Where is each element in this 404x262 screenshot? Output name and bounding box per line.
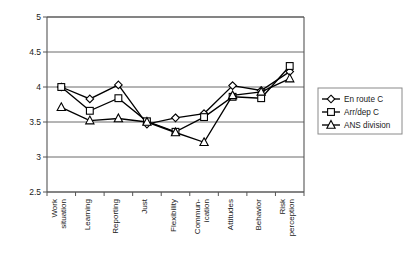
data-point-marker: [201, 114, 208, 121]
data-point-marker: [172, 114, 180, 122]
y-tick-label: 5: [36, 12, 41, 22]
x-tick-label: Reporting: [111, 199, 120, 234]
legend-item-ans-division[interactable]: ANS division: [322, 121, 391, 131]
x-tick-label: Just: [140, 198, 149, 213]
x-tick-label: Commun-: [193, 199, 202, 234]
x-axis-labels-group: WorksituationLearningReportingJustFlexib…: [50, 198, 296, 236]
legend-item-arr-dep-c[interactable]: Arr/dep C: [322, 108, 379, 117]
y-tick-label: 3: [36, 152, 41, 162]
data-point-marker: [114, 114, 122, 122]
data-point-marker: [115, 95, 122, 102]
x-tick-label: Work: [50, 198, 59, 218]
y-tick-label: 4: [36, 82, 41, 92]
data-point-marker: [258, 95, 265, 102]
chart-container: 54.543.532.5 WorksituationLearningReport…: [0, 0, 404, 262]
legend-item-en-route-c[interactable]: En route C: [322, 95, 383, 104]
x-tick-label: Learning: [83, 199, 92, 230]
x-tick-label: Risk: [278, 198, 287, 215]
x-tick-label: situation: [59, 199, 68, 229]
legend-label: ANS division: [344, 121, 391, 130]
legend-label: En route C: [344, 95, 383, 104]
x-tick-label: ication: [202, 199, 211, 222]
data-point-marker: [86, 95, 94, 103]
data-point-marker: [86, 107, 93, 114]
y-tick-label: 4.5: [29, 47, 41, 57]
chart-legend: En route CArr/dep CANS division: [318, 88, 402, 134]
axes-group: [47, 17, 304, 192]
data-point-marker: [58, 84, 65, 91]
x-axis-ticks-group: [47, 192, 304, 196]
x-tick-label: perception: [287, 199, 296, 236]
legend-label: Arr/dep C: [344, 108, 379, 117]
y-tick-label: 3.5: [29, 117, 41, 127]
legend-marker-square-icon: [328, 109, 335, 116]
line-chart: 54.543.532.5 WorksituationLearningReport…: [0, 0, 404, 262]
data-series-group: [57, 63, 294, 146]
data-point-marker: [57, 103, 65, 111]
x-tick-label: Flexibility: [169, 199, 178, 232]
x-tick-label: Attitudes: [226, 199, 235, 230]
x-tick-label: Behavior: [254, 199, 263, 231]
gridlines-group: [47, 17, 304, 192]
data-point-marker: [286, 63, 293, 70]
y-tick-label: 2.5: [29, 187, 41, 197]
y-axis-ticks-group: 54.543.532.5: [29, 12, 47, 197]
data-point-marker: [286, 74, 294, 82]
